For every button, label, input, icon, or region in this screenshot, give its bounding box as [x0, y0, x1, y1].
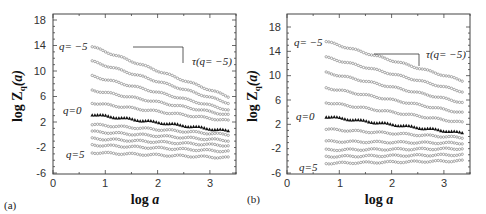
series-q-0 [90, 113, 230, 132]
series-q--2 [325, 87, 463, 114]
chart-a-svg: -6 -2 2 6 10 14 18 0 1 2 3 log a log Zq(… [0, 0, 243, 214]
y-tick-labels-b: -6 -2 2 6 10 14 18 [269, 21, 281, 179]
y-tick-labels-a: -6 -2 2 6 10 14 18 [34, 14, 46, 179]
y-axis-title: log Zq(a) [245, 70, 262, 122]
tau-slope-bracket [133, 47, 183, 63]
y-tick: 10 [269, 69, 281, 81]
x-tick: 3 [207, 177, 213, 189]
x-axis-title: log a [131, 192, 159, 207]
x-tick: 2 [389, 177, 395, 189]
panel-a: -6 -2 2 6 10 14 18 0 1 2 3 log a log Zq(… [0, 0, 243, 214]
annotation-tau: τ(q= −5) [192, 55, 232, 68]
x-tick: 1 [102, 177, 108, 189]
chart-b-svg: -6 -2 2 6 10 14 18 0 1 2 3 log a log Zq(… [243, 0, 486, 214]
series-q-3 [325, 147, 463, 152]
annotation-q-minus-5: q= −5 [294, 36, 323, 48]
y-tick: 6 [275, 94, 281, 106]
x-tick: 3 [441, 177, 447, 189]
x-tick: 2 [155, 177, 161, 189]
y-tick: -6 [271, 167, 281, 179]
series-q-5 [325, 159, 463, 165]
y-tick: 14 [34, 39, 46, 51]
series-q-5 [91, 151, 229, 159]
panel-label-b: (b) [247, 193, 260, 206]
x-tick: 0 [50, 177, 56, 189]
y-tick: -2 [271, 142, 281, 154]
annotation-q-5: q=5 [66, 148, 85, 160]
y-tick: 18 [34, 14, 46, 26]
annotation-q-0: q=0 [63, 104, 82, 116]
series-q-2 [325, 139, 463, 145]
y-axis-title: log Zq(a) [10, 70, 27, 122]
series-q-0 [324, 115, 464, 134]
panel-b: -6 -2 2 6 10 14 18 0 1 2 3 log a log Zq(… [243, 0, 486, 214]
y-tick: 14 [269, 45, 281, 57]
annotation-q-minus-5: q= −5 [59, 40, 88, 52]
annotation-tau: τ(q= −5) [426, 48, 466, 61]
annotation-q-0: q=0 [296, 110, 315, 122]
y-tick: 6 [40, 90, 46, 102]
x-tick-labels-b: 0 1 2 3 [284, 177, 447, 189]
y-tick: 2 [40, 116, 46, 128]
y-tick: -2 [36, 141, 46, 153]
y-tick: 2 [275, 118, 281, 130]
x-tick-labels-a: 0 1 2 3 [50, 177, 213, 189]
series-q--5 [91, 46, 229, 99]
x-axis-title: log a [365, 192, 393, 207]
y-tick: -6 [36, 167, 46, 179]
series-q-1 [325, 128, 463, 140]
x-tick: 0 [284, 177, 290, 189]
y-tick: 10 [34, 65, 46, 77]
annotation-q-5: q=5 [299, 161, 318, 173]
y-tick: 18 [269, 21, 281, 33]
series-q-4 [325, 153, 463, 158]
x-tick: 1 [337, 177, 343, 189]
panel-label-a: (a) [4, 199, 17, 212]
